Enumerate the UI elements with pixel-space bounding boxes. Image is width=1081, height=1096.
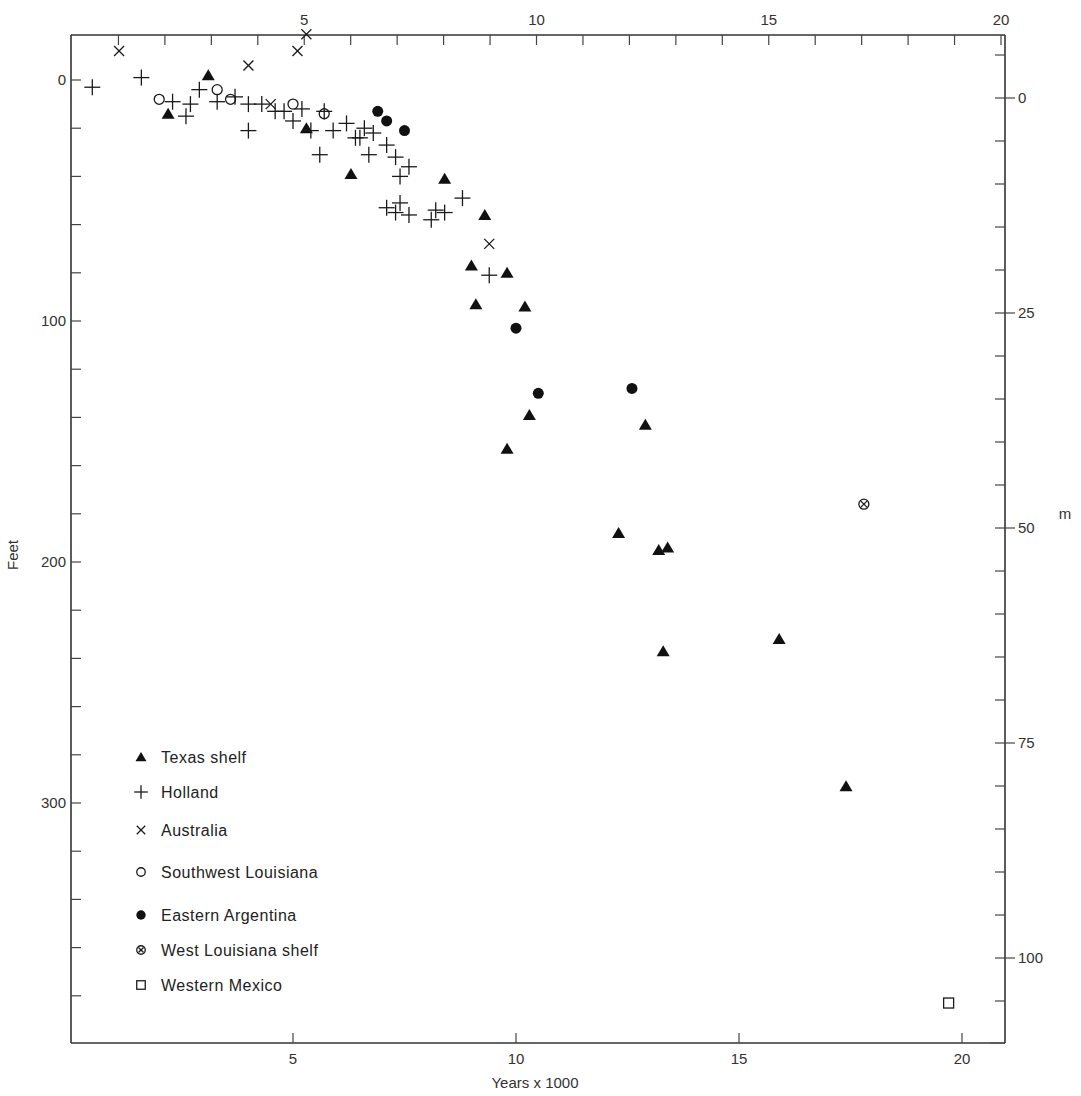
filled-circle-marker-icon: [372, 106, 383, 117]
legend-label: Holland: [161, 784, 219, 801]
x-top-tick-label: 15: [760, 11, 777, 28]
filled-triangle-marker-icon: [478, 209, 491, 220]
legend-label: Texas shelf: [161, 749, 247, 766]
x-top-tick-label: 5: [300, 11, 308, 28]
plus-marker-icon: [379, 137, 395, 153]
filled-triangle-marker-icon: [202, 69, 215, 80]
x-marker-icon: [137, 826, 146, 835]
filled-circle-marker-icon: [626, 383, 637, 394]
plus-marker-icon: [352, 130, 368, 146]
legend-label: West Louisiana shelf: [161, 942, 318, 959]
y-right-tick-label: 100: [1018, 949, 1043, 966]
legend-item: Texas shelf: [135, 749, 246, 766]
filled-triangle-marker-icon: [639, 419, 652, 430]
plus-marker-icon: [401, 207, 417, 223]
filled-triangle-marker-icon: [465, 260, 478, 271]
plus-marker-icon: [388, 205, 404, 221]
y-left-tick-label: 100: [41, 312, 66, 329]
filled-triangle-marker-icon: [523, 409, 536, 420]
series-texas-shelf: [162, 69, 853, 791]
legend: Texas shelfHollandAustraliaSouthwest Lou…: [134, 749, 318, 994]
filled-triangle-marker-icon: [344, 168, 357, 179]
legend-item: West Louisiana shelf: [137, 942, 319, 959]
x-top-tick-label: 20: [993, 11, 1010, 28]
plus-marker-icon: [454, 190, 470, 206]
open-circle-marker-icon: [226, 94, 236, 104]
legend-label: Eastern Argentina: [161, 907, 297, 924]
plus-marker-icon: [165, 94, 181, 110]
filled-triangle-marker-icon: [518, 301, 531, 312]
legend-label: Australia: [161, 822, 228, 839]
plus-marker-icon: [285, 113, 301, 129]
filled-triangle-marker-icon: [135, 752, 146, 761]
y-left-tick-label: 0: [58, 71, 66, 88]
filled-circle-marker-icon: [511, 323, 522, 334]
plus-marker-icon: [401, 159, 417, 175]
open-square-marker-icon: [137, 981, 146, 990]
filled-triangle-marker-icon: [657, 645, 670, 656]
x-marker-icon: [243, 61, 253, 71]
plus-marker-icon: [316, 103, 332, 119]
plus-marker-icon: [339, 115, 355, 131]
legend-item: Australia: [137, 822, 228, 839]
open-circle-marker-icon: [154, 94, 164, 104]
plus-marker-icon: [356, 120, 372, 136]
plus-marker-icon: [178, 108, 194, 124]
y-left-tick-label: 300: [41, 794, 66, 811]
plus-marker-icon: [276, 103, 292, 119]
y-right-tick-label: 0: [1018, 89, 1026, 106]
x-marker-icon: [114, 46, 124, 56]
filled-triangle-marker-icon: [501, 267, 514, 278]
x-top-tick-label: 10: [528, 11, 545, 28]
plus-marker-icon: [294, 101, 310, 117]
legend-item: Holland: [134, 784, 219, 801]
circled-x-marker-icon: [137, 946, 146, 955]
x-bottom-tick-label: 5: [289, 1050, 297, 1067]
filled-triangle-marker-icon: [661, 542, 674, 553]
filled-triangle-marker-icon: [501, 443, 514, 454]
filled-triangle-marker-icon: [612, 527, 625, 538]
series-eastern-argentina: [372, 106, 637, 399]
filled-triangle-marker-icon: [840, 780, 853, 791]
x-marker-icon: [292, 46, 302, 56]
y-axis-title-right: m: [1059, 505, 1072, 522]
x-bottom-tick-label: 15: [731, 1050, 748, 1067]
plus-marker-icon: [134, 785, 148, 799]
series-west-louisiana-shelf: [859, 499, 869, 509]
plus-marker-icon: [84, 79, 100, 95]
y-right-tick-label: 50: [1018, 519, 1035, 536]
plus-marker-icon: [365, 125, 381, 141]
legend-item: Western Mexico: [137, 977, 283, 994]
legend-item: Eastern Argentina: [136, 907, 296, 924]
y-right-tick-label: 25: [1018, 304, 1035, 321]
plus-marker-icon: [191, 82, 207, 98]
plus-marker-icon: [312, 147, 328, 163]
y-right-tick-label: 75: [1018, 734, 1035, 751]
plus-marker-icon: [437, 205, 453, 221]
plus-marker-icon: [392, 195, 408, 211]
plus-marker-icon: [392, 168, 408, 184]
filled-triangle-marker-icon: [438, 173, 451, 184]
axis-ticks: [71, 35, 1015, 1043]
plus-marker-icon: [254, 96, 270, 112]
plus-marker-icon: [325, 123, 341, 139]
legend-label: Southwest Louisiana: [161, 864, 318, 881]
plus-marker-icon: [240, 123, 256, 139]
series-western-mexico: [944, 998, 954, 1008]
plus-marker-icon: [379, 200, 395, 216]
x-axis-title: Years x 1000: [491, 1074, 578, 1091]
x-bottom-tick-label: 10: [508, 1050, 525, 1067]
plus-marker-icon: [481, 267, 497, 283]
plus-marker-icon: [361, 147, 377, 163]
plus-marker-icon: [428, 202, 444, 218]
plus-marker-icon: [423, 212, 439, 228]
x-marker-icon: [484, 239, 494, 249]
plus-marker-icon: [388, 149, 404, 165]
x-bottom-tick-label: 20: [954, 1050, 971, 1067]
series-holland: [84, 70, 497, 284]
open-circle-marker-icon: [137, 868, 146, 877]
plus-marker-icon: [209, 94, 225, 110]
filled-circle-marker-icon: [136, 910, 145, 919]
series-australia: [114, 29, 494, 249]
legend-item: Southwest Louisiana: [137, 864, 318, 881]
